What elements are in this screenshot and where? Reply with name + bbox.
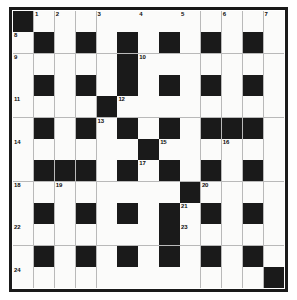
crossword-letter-cell[interactable] bbox=[222, 160, 242, 181]
crossword-letter-cell[interactable] bbox=[222, 224, 242, 245]
crossword-letter-cell[interactable] bbox=[76, 267, 96, 288]
crossword-letter-cell[interactable] bbox=[34, 139, 54, 160]
crossword-letter-cell[interactable] bbox=[76, 96, 96, 117]
crossword-letter-cell[interactable] bbox=[180, 118, 200, 139]
crossword-letter-cell[interactable] bbox=[180, 139, 200, 160]
crossword-letter-cell[interactable] bbox=[76, 139, 96, 160]
crossword-letter-cell[interactable] bbox=[34, 267, 54, 288]
crossword-letter-cell[interactable] bbox=[222, 246, 242, 267]
crossword-letter-cell[interactable] bbox=[243, 139, 263, 160]
crossword-letter-cell[interactable] bbox=[159, 182, 179, 203]
crossword-letter-cell[interactable] bbox=[13, 75, 33, 96]
crossword-letter-cell[interactable] bbox=[97, 75, 117, 96]
crossword-letter-cell[interactable]: 10 bbox=[138, 54, 158, 75]
crossword-letter-cell[interactable]: 18 bbox=[13, 182, 33, 203]
crossword-letter-cell[interactable] bbox=[243, 54, 263, 75]
crossword-letter-cell[interactable] bbox=[180, 160, 200, 181]
crossword-letter-cell[interactable] bbox=[97, 182, 117, 203]
crossword-letter-cell[interactable]: 21 bbox=[180, 203, 200, 224]
crossword-letter-cell[interactable] bbox=[264, 75, 284, 96]
crossword-letter-cell[interactable]: 6 bbox=[222, 11, 242, 32]
crossword-letter-cell[interactable] bbox=[97, 246, 117, 267]
crossword-letter-cell[interactable] bbox=[55, 75, 75, 96]
crossword-letter-cell[interactable] bbox=[243, 224, 263, 245]
crossword-letter-cell[interactable] bbox=[13, 246, 33, 267]
crossword-letter-cell[interactable]: 17 bbox=[138, 160, 158, 181]
crossword-letter-cell[interactable] bbox=[138, 267, 158, 288]
crossword-letter-cell[interactable]: 22 bbox=[13, 224, 33, 245]
crossword-letter-cell[interactable] bbox=[201, 54, 221, 75]
crossword-letter-cell[interactable] bbox=[97, 203, 117, 224]
crossword-grid[interactable]: 123456789101112131415161718192021222324 bbox=[13, 11, 284, 288]
crossword-letter-cell[interactable] bbox=[180, 32, 200, 53]
crossword-letter-cell[interactable] bbox=[201, 224, 221, 245]
crossword-letter-cell[interactable] bbox=[222, 182, 242, 203]
crossword-letter-cell[interactable]: 24 bbox=[13, 267, 33, 288]
crossword-letter-cell[interactable] bbox=[76, 224, 96, 245]
crossword-letter-cell[interactable] bbox=[55, 203, 75, 224]
crossword-letter-cell[interactable] bbox=[138, 182, 158, 203]
crossword-letter-cell[interactable] bbox=[264, 139, 284, 160]
crossword-letter-cell[interactable]: 4 bbox=[138, 11, 158, 32]
crossword-letter-cell[interactable] bbox=[243, 11, 263, 32]
crossword-letter-cell[interactable] bbox=[222, 54, 242, 75]
crossword-letter-cell[interactable] bbox=[55, 224, 75, 245]
crossword-letter-cell[interactable] bbox=[180, 75, 200, 96]
crossword-letter-cell[interactable] bbox=[243, 267, 263, 288]
crossword-letter-cell[interactable]: 14 bbox=[13, 139, 33, 160]
crossword-letter-cell[interactable] bbox=[55, 96, 75, 117]
crossword-letter-cell[interactable]: 8 bbox=[13, 32, 33, 53]
crossword-letter-cell[interactable] bbox=[159, 267, 179, 288]
crossword-letter-cell[interactable]: 15 bbox=[159, 139, 179, 160]
crossword-letter-cell[interactable] bbox=[117, 267, 137, 288]
crossword-letter-cell[interactable] bbox=[201, 11, 221, 32]
crossword-letter-cell[interactable] bbox=[201, 139, 221, 160]
crossword-letter-cell[interactable] bbox=[138, 203, 158, 224]
crossword-letter-cell[interactable] bbox=[117, 139, 137, 160]
crossword-letter-cell[interactable]: 7 bbox=[264, 11, 284, 32]
crossword-letter-cell[interactable] bbox=[264, 246, 284, 267]
crossword-letter-cell[interactable] bbox=[34, 54, 54, 75]
crossword-letter-cell[interactable] bbox=[34, 96, 54, 117]
crossword-letter-cell[interactable] bbox=[222, 75, 242, 96]
crossword-letter-cell[interactable] bbox=[138, 96, 158, 117]
crossword-letter-cell[interactable] bbox=[117, 182, 137, 203]
crossword-letter-cell[interactable]: 3 bbox=[97, 11, 117, 32]
crossword-letter-cell[interactable]: 23 bbox=[180, 224, 200, 245]
crossword-letter-cell[interactable]: 11 bbox=[13, 96, 33, 117]
crossword-letter-cell[interactable] bbox=[55, 246, 75, 267]
crossword-letter-cell[interactable] bbox=[76, 11, 96, 32]
crossword-letter-cell[interactable] bbox=[97, 267, 117, 288]
crossword-letter-cell[interactable]: 20 bbox=[201, 182, 221, 203]
crossword-letter-cell[interactable] bbox=[180, 267, 200, 288]
crossword-letter-cell[interactable] bbox=[97, 139, 117, 160]
crossword-letter-cell[interactable] bbox=[264, 32, 284, 53]
crossword-letter-cell[interactable] bbox=[222, 96, 242, 117]
crossword-letter-cell[interactable] bbox=[13, 118, 33, 139]
crossword-letter-cell[interactable] bbox=[97, 54, 117, 75]
crossword-letter-cell[interactable] bbox=[222, 32, 242, 53]
crossword-letter-cell[interactable] bbox=[34, 182, 54, 203]
crossword-letter-cell[interactable] bbox=[264, 160, 284, 181]
crossword-letter-cell[interactable] bbox=[264, 118, 284, 139]
crossword-letter-cell[interactable] bbox=[97, 160, 117, 181]
crossword-letter-cell[interactable]: 19 bbox=[55, 182, 75, 203]
crossword-letter-cell[interactable] bbox=[117, 11, 137, 32]
crossword-letter-cell[interactable] bbox=[55, 32, 75, 53]
crossword-letter-cell[interactable] bbox=[222, 267, 242, 288]
crossword-letter-cell[interactable]: 12 bbox=[117, 96, 137, 117]
crossword-letter-cell[interactable]: 13 bbox=[97, 118, 117, 139]
crossword-letter-cell[interactable]: 16 bbox=[222, 139, 242, 160]
crossword-letter-cell[interactable] bbox=[264, 96, 284, 117]
crossword-letter-cell[interactable] bbox=[264, 224, 284, 245]
crossword-letter-cell[interactable] bbox=[180, 96, 200, 117]
crossword-letter-cell[interactable] bbox=[264, 203, 284, 224]
crossword-letter-cell[interactable] bbox=[76, 54, 96, 75]
crossword-letter-cell[interactable] bbox=[97, 224, 117, 245]
crossword-letter-cell[interactable] bbox=[180, 54, 200, 75]
crossword-letter-cell[interactable]: 5 bbox=[180, 11, 200, 32]
crossword-letter-cell[interactable] bbox=[138, 118, 158, 139]
crossword-letter-cell[interactable] bbox=[76, 182, 96, 203]
crossword-letter-cell[interactable] bbox=[264, 182, 284, 203]
crossword-letter-cell[interactable] bbox=[55, 118, 75, 139]
